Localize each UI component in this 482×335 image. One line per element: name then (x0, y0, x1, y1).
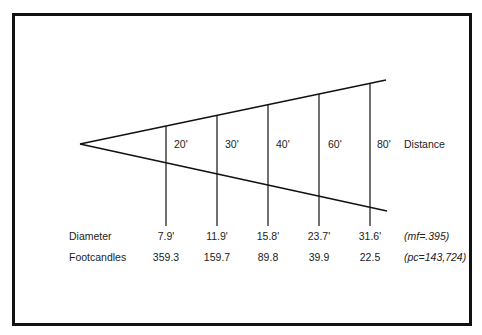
distance-label-40: 40' (276, 138, 290, 150)
distance-label-60: 60' (328, 138, 342, 150)
distance-label-30: 30' (225, 138, 239, 150)
cone-upper-edge (80, 80, 386, 144)
footcandles-note: (pc=143,724) (404, 251, 466, 263)
diameter-row-label: Diameter (69, 230, 112, 242)
diameter-value-60: 23.7' (299, 230, 339, 242)
footcandles-row-label: Footcandles (69, 251, 126, 263)
diameter-value-30: 11.9' (197, 230, 237, 242)
distance-axis-label: Distance (404, 138, 445, 150)
diameter-note: (mf=.395) (404, 230, 449, 242)
footcandles-value-80: 22.5 (350, 251, 390, 263)
footcandles-value-20: 359.3 (146, 251, 186, 263)
footcandles-value-60: 39.9 (299, 251, 339, 263)
footcandles-value-40: 89.8 (248, 251, 288, 263)
footcandles-value-30: 159.7 (197, 251, 237, 263)
distance-label-20: 20' (174, 138, 188, 150)
diameter-value-80: 31.6' (350, 230, 390, 242)
distance-label-80: 80' (377, 138, 391, 150)
cone-lower-edge (80, 144, 387, 211)
light-cone-diagram (0, 0, 482, 335)
diameter-value-40: 15.8' (248, 230, 288, 242)
diameter-value-20: 7.9' (146, 230, 186, 242)
